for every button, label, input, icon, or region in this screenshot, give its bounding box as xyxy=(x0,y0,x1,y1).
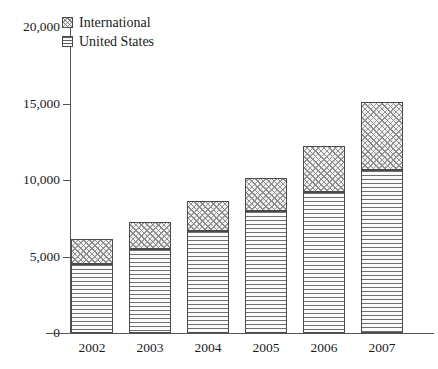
legend-label-international: International xyxy=(79,16,151,30)
y-axis-tick xyxy=(63,257,70,258)
bar-2002 xyxy=(71,239,113,333)
chart-legend: International United States xyxy=(62,14,154,52)
bar-segment-united-states-2002 xyxy=(71,264,113,333)
bar-segment-international-2002 xyxy=(71,239,113,264)
x-axis-tick-labels: 200220032004200520062007 xyxy=(70,340,434,364)
bar-2006 xyxy=(303,146,345,333)
bar-segment-united-states-2006 xyxy=(303,192,345,333)
bar-segment-united-states-2005 xyxy=(245,211,287,333)
stacked-bar-chart: 05,00010,00015,00020,000 200220032004200… xyxy=(0,0,438,369)
x-axis-tick-label-2003: 2003 xyxy=(129,340,171,356)
bar-segment-united-states-2003 xyxy=(129,249,171,333)
x-axis-tick-label-2006: 2006 xyxy=(303,340,345,356)
legend-item-international: International xyxy=(62,14,154,31)
x-axis-tick-label-2004: 2004 xyxy=(187,340,229,356)
bar-segment-united-states-2007 xyxy=(361,170,403,333)
x-axis-line xyxy=(46,333,434,334)
y-axis-tick-label: 15,000 xyxy=(2,97,60,111)
bar-segment-international-2007 xyxy=(361,102,403,170)
x-axis-tick-label-2005: 2005 xyxy=(245,340,287,356)
bar-2003 xyxy=(129,222,171,333)
plot-area xyxy=(70,27,434,333)
bar-2004 xyxy=(187,201,229,333)
x-axis-tick-label-2002: 2002 xyxy=(71,340,113,356)
y-axis-tick-label: 5,000 xyxy=(2,250,60,264)
y-axis-tick-labels: 05,00010,00015,00020,000 xyxy=(0,0,60,369)
bar-2007 xyxy=(361,102,403,333)
legend-item-united-states: United States xyxy=(62,33,154,50)
y-axis-tick xyxy=(63,180,70,181)
bar-segment-international-2004 xyxy=(187,201,229,230)
bar-2005 xyxy=(245,178,287,333)
y-axis-tick-label: 20,000 xyxy=(2,20,60,34)
bar-segment-international-2006 xyxy=(303,146,345,192)
y-axis-tick xyxy=(63,333,70,334)
bar-segment-united-states-2004 xyxy=(187,231,229,334)
bar-segment-international-2003 xyxy=(129,222,171,249)
x-axis-tick-label-2007: 2007 xyxy=(361,340,403,356)
y-axis-tick xyxy=(63,104,70,105)
y-axis-tick-label: 10,000 xyxy=(2,173,60,187)
legend-label-united-states: United States xyxy=(79,35,154,49)
legend-swatch-united-states-icon xyxy=(62,36,73,47)
bar-segment-international-2005 xyxy=(245,178,287,212)
y-axis-tick xyxy=(63,27,70,28)
